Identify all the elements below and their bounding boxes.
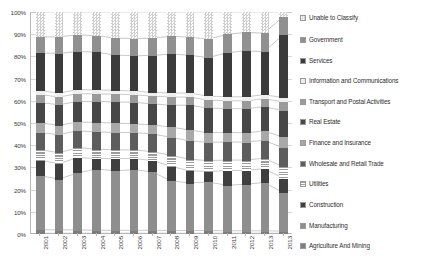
x-axis-tick-label: 2007	[155, 236, 162, 249]
bar-segment	[167, 54, 176, 93]
y-axis-tick-label: 80%	[14, 53, 26, 60]
legend-swatch-icon	[300, 99, 306, 105]
bar-segment	[223, 133, 232, 143]
bar-segment	[148, 125, 157, 134]
bar-column	[36, 12, 45, 233]
bar-segment	[73, 90, 82, 94]
x-axis-tick-mark	[133, 233, 134, 236]
legend-swatch-icon	[300, 243, 306, 249]
bar-segment	[130, 39, 139, 56]
bar-segment	[111, 91, 120, 95]
y-axis-tick-label: 90%	[14, 31, 26, 38]
legend-item-label: Government	[309, 36, 343, 44]
legend-item[interactable]: Unable to Classify	[300, 14, 425, 22]
x-axis-tick-label: 2006	[136, 236, 143, 249]
bar-segment	[130, 124, 139, 133]
bar-segment	[111, 171, 120, 231]
legend-item-label: Manufacturing	[309, 222, 348, 230]
bar-segment	[55, 126, 64, 135]
legend-item[interactable]: Construction	[300, 201, 425, 209]
bar-segment	[130, 103, 139, 125]
x-axis-tick-mark	[114, 233, 115, 236]
bar-column	[242, 12, 251, 233]
bar-column	[223, 12, 232, 233]
legend-item[interactable]: Information and Communications	[300, 77, 425, 85]
bar-segment	[36, 103, 45, 123]
legend-swatch-icon	[300, 15, 306, 21]
bar-segment	[204, 96, 213, 100]
x-axis-tick-mark	[58, 233, 59, 236]
legend-item[interactable]: Real Estate	[300, 118, 425, 126]
legend-item[interactable]: Wholesale and Retail Trade	[300, 160, 425, 168]
x-axis-tick-label: 2005	[117, 236, 124, 249]
bar-segment	[279, 12, 288, 17]
bar-segment	[167, 105, 176, 127]
bar-segment	[167, 12, 176, 36]
bar-segment	[111, 159, 120, 171]
bar-segment	[242, 12, 251, 32]
bar-segment	[36, 176, 45, 230]
bar-segment	[73, 52, 82, 90]
plot-area	[30, 12, 292, 234]
legend-item[interactable]: Services	[300, 57, 425, 65]
bar-segment	[130, 95, 139, 103]
x-axis-tick-label: 2010	[211, 236, 218, 249]
x-axis-tick-label: 2001	[42, 236, 49, 249]
bar-segment	[167, 97, 176, 105]
bar-segment	[55, 231, 64, 234]
bar-segment	[130, 133, 139, 150]
bar-segment	[92, 132, 101, 149]
legend-item[interactable]: Finance and Insurance	[300, 139, 425, 147]
x-axis: 2001200220032004200520062007200820092010…	[30, 236, 292, 278]
bar-segment	[36, 12, 45, 37]
bar-segment	[242, 171, 251, 185]
legend-item[interactable]: Utilities	[300, 180, 425, 188]
x-axis-tick-label: 2012	[248, 236, 255, 249]
bar-segment	[261, 33, 270, 52]
y-axis-tick-label: 20%	[14, 186, 26, 193]
bar-segment	[204, 100, 213, 108]
x-axis-tick-mark	[208, 233, 209, 236]
bar-segment	[186, 130, 195, 141]
bar-column	[186, 12, 195, 233]
legend-item-label: Utilities	[309, 180, 328, 188]
bar-segment	[130, 56, 139, 91]
x-axis-tick-mark	[170, 233, 171, 236]
x-axis-tick-mark	[152, 233, 153, 236]
bar-segment	[186, 93, 195, 97]
bar-segment	[261, 131, 270, 140]
legend-item[interactable]: Government	[300, 36, 425, 44]
bar-column	[148, 12, 157, 233]
legend-item[interactable]: Transport and Postal Activities	[300, 98, 425, 106]
bar-segment	[242, 109, 251, 133]
bar-segment	[223, 109, 232, 133]
x-axis-tick-label: 2009	[192, 236, 199, 249]
x-axis-tick-mark	[96, 233, 97, 236]
y-axis-tick-label: 60%	[14, 97, 26, 104]
bar-segment	[167, 138, 176, 156]
bar-segment	[111, 38, 120, 55]
bar-segment	[111, 123, 120, 132]
bar-segment	[186, 141, 195, 159]
x-axis-tick-mark	[189, 233, 190, 236]
legend-item-label: Information and Communications	[309, 77, 398, 85]
legend-item[interactable]: Manufacturing	[300, 222, 425, 230]
bar-segment	[36, 133, 45, 150]
legend-item-label: Services	[309, 57, 332, 65]
legend-item-label: Unable to Classify	[309, 14, 358, 22]
bar-segment	[261, 183, 270, 232]
bar-segment	[92, 94, 101, 102]
bar-column	[261, 12, 270, 233]
bar-segment	[186, 160, 195, 172]
legend-swatch-icon	[300, 202, 306, 208]
x-axis-tick-mark	[245, 233, 246, 236]
bar-segment	[186, 171, 195, 183]
bar-segment	[186, 97, 195, 105]
bar-segment	[261, 99, 270, 107]
y-axis-tick-label: 70%	[14, 75, 26, 82]
x-axis-tick-label: 2013	[267, 236, 274, 249]
legend-item[interactable]: Agriculture And Mining	[300, 242, 425, 250]
bar-segment	[148, 172, 157, 231]
bar-segment	[130, 159, 139, 170]
bar-segment	[242, 101, 251, 109]
